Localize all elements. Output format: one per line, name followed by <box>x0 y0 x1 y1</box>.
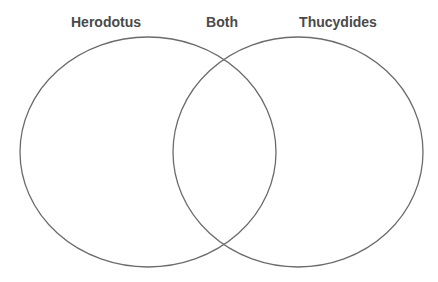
thucydides-circle <box>173 37 423 267</box>
venn-diagram: Herodotus Both Thucydides <box>0 0 438 282</box>
thucydides-label: Thucydides <box>299 14 377 30</box>
herodotus-label: Herodotus <box>71 14 141 30</box>
herodotus-circle <box>20 37 276 267</box>
both-label: Both <box>206 14 238 30</box>
venn-diagram-canvas <box>0 0 438 282</box>
